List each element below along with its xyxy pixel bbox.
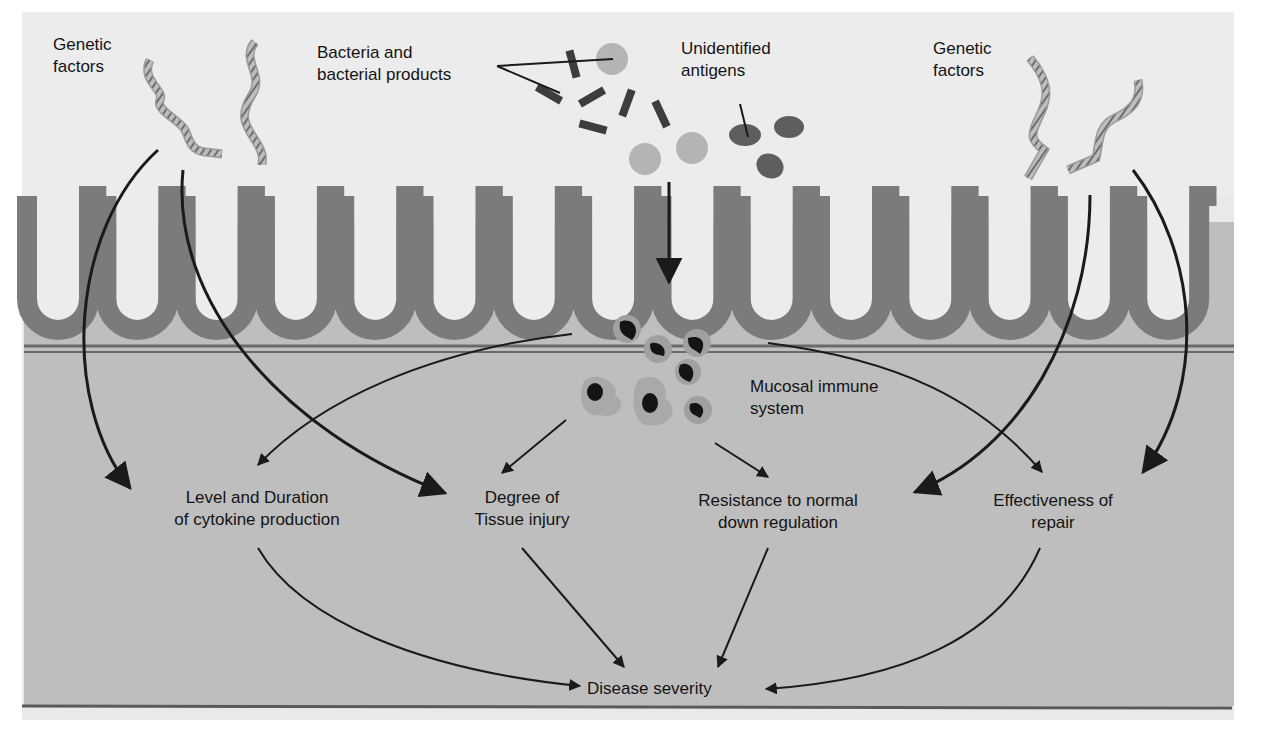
label-line: of cytokine production xyxy=(126,509,388,531)
label-line: Mucosal immune xyxy=(750,376,879,398)
label-line: bacterial products xyxy=(317,64,451,86)
label-line: Tissue injury xyxy=(450,509,594,531)
label-bacteria: Bacteria and bacterial products xyxy=(317,42,451,86)
ibd-pathogenesis-diagram xyxy=(0,0,1264,730)
label-line: Bacteria and xyxy=(317,42,451,64)
label-line: repair xyxy=(958,512,1148,534)
label-line: Genetic xyxy=(53,34,112,56)
label-mucosal-immune-system: Mucosal immune system xyxy=(750,376,879,420)
tissue-bottom-border xyxy=(22,706,1232,708)
result-disease-severity: Disease severity xyxy=(587,678,712,700)
outcome-effectiveness-of-repair: Effectiveness of repair xyxy=(958,490,1148,534)
label-line: Resistance to normal xyxy=(668,490,888,512)
outcome-down-regulation: Resistance to normal down regulation xyxy=(668,490,888,534)
label-line: factors xyxy=(53,56,112,78)
label-line: factors xyxy=(933,60,992,82)
label-line: Level and Duration xyxy=(126,487,388,509)
intestinal-villi xyxy=(22,12,1234,330)
label-line: Genetic xyxy=(933,38,992,60)
outcome-tissue-injury: Degree of Tissue injury xyxy=(450,487,594,531)
label-genetic-factors-left: Genetic factors xyxy=(53,34,112,78)
label-line: Disease severity xyxy=(587,678,712,700)
label-line: down regulation xyxy=(668,512,888,534)
label-line: system xyxy=(750,398,879,420)
label-unidentified-antigens: Unidentified antigens xyxy=(681,38,771,82)
label-genetic-factors-right: Genetic factors xyxy=(933,38,992,82)
label-line: Effectiveness of xyxy=(958,490,1148,512)
label-line: antigens xyxy=(681,60,771,82)
outcome-cytokine-production: Level and Duration of cytokine productio… xyxy=(126,487,388,531)
label-line: Unidentified xyxy=(681,38,771,60)
label-line: Degree of xyxy=(450,487,594,509)
